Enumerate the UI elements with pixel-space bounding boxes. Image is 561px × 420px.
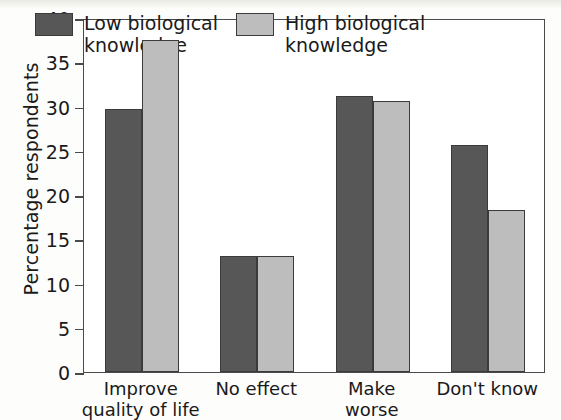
bar-low xyxy=(220,256,257,372)
y-axis-tick-mark xyxy=(75,373,84,375)
bar-low xyxy=(451,145,488,372)
y-axis-tick-mark xyxy=(75,329,84,331)
y-axis-tick-mark xyxy=(75,152,84,154)
y-axis-tick-mark xyxy=(75,108,84,110)
bar-high xyxy=(373,101,410,372)
bar-low xyxy=(105,109,142,372)
x-axis-category-label: Don't know xyxy=(418,378,558,399)
bar-high xyxy=(142,40,179,372)
bar-low xyxy=(336,96,373,372)
bar-high xyxy=(488,210,525,372)
y-axis-tick-label: 20 xyxy=(30,185,70,207)
y-axis-tick-mark xyxy=(75,285,84,287)
legend-swatch-icon-low xyxy=(35,13,73,36)
y-axis-tick-mark xyxy=(75,240,84,242)
y-axis-tick-label: 10 xyxy=(30,274,70,296)
y-axis-tick-label: 30 xyxy=(30,97,70,119)
legend-swatch-icon-high xyxy=(236,13,274,36)
y-axis-tick-mark xyxy=(75,196,84,198)
y-axis-tick-label: 5 xyxy=(30,318,70,340)
y-axis-tick-label: 15 xyxy=(30,229,70,251)
y-axis-tick-mark xyxy=(75,63,84,65)
legend-item-high-biological-knowledge: High biological knowledge xyxy=(236,12,425,56)
scan-tint xyxy=(0,0,561,9)
bar-high xyxy=(257,256,294,372)
legend-item-low-biological-knowledge: Low biological knowledge xyxy=(35,12,218,56)
legend-label-high: High biological knowledge xyxy=(285,12,425,56)
plot-area: 0510152025303540 xyxy=(83,19,545,373)
y-axis-tick-label: 0 xyxy=(30,362,70,384)
y-axis-tick-label: 25 xyxy=(30,141,70,163)
